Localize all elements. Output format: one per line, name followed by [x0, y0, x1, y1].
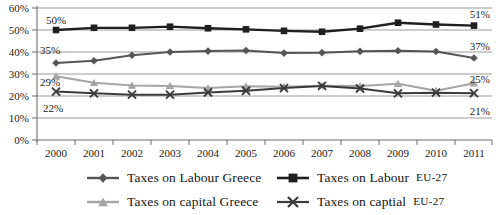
legend-label-capital-eu27-sc: EU-27 — [413, 196, 444, 207]
legend-marker-x — [276, 195, 310, 209]
data-point-diamond — [356, 48, 364, 56]
label-capital-gr-start: 29% — [40, 76, 60, 88]
ytick-label-10: 10% — [9, 112, 29, 124]
plot-area: 60% 50% 40% 30% 20% 10% 0% 2000 2001 — [0, 0, 504, 170]
xtick-label-2000: 2000 — [45, 147, 68, 159]
label-capital-eu-start: 22% — [43, 102, 63, 114]
label-labour-gr-end: 37% — [470, 40, 490, 52]
xtick-label-2002: 2002 — [121, 147, 143, 159]
legend-label-labour-eu27: Taxes on Labour — [317, 171, 409, 185]
ytick-label-20: 20% — [9, 90, 29, 102]
legend-marker-diamond — [86, 171, 120, 185]
legend-item-capital-greece[interactable]: Taxes on capital Greece — [86, 195, 276, 209]
xtick-label-2004: 2004 — [197, 147, 220, 159]
data-point-square — [243, 26, 250, 33]
xtick-label-2011: 2011 — [463, 147, 485, 159]
x-axis-labels: 2000 2001 2002 2003 2004 2005 2006 2007 … — [45, 147, 485, 159]
data-point-square — [129, 25, 136, 32]
series-2 — [52, 72, 478, 94]
xtick-label-2006: 2006 — [273, 147, 296, 159]
data-point-square — [205, 25, 212, 32]
data-point-diamond — [394, 47, 402, 55]
data-point-diamond — [280, 49, 288, 57]
xtick-label-2007: 2007 — [311, 147, 334, 159]
data-point-diamond — [470, 54, 478, 62]
y-axis-labels: 60% 50% 40% 30% 20% 10% 0% — [9, 2, 29, 146]
legend-label-capital-eu27: Taxes on captial — [317, 195, 406, 209]
data-point-square — [167, 23, 174, 30]
x-axis-ticks — [37, 140, 492, 145]
legend-label-labour-eu27-sc: EU-27 — [416, 172, 447, 183]
data-point-square — [281, 28, 288, 35]
series-layer — [52, 19, 478, 98]
chart-legend: Taxes on Labour Greece Taxes on Labour E… — [0, 166, 504, 215]
data-point-square — [395, 19, 402, 26]
ytick-label-60: 60% — [9, 2, 29, 14]
series-1 — [53, 19, 478, 35]
data-point-diamond — [242, 47, 250, 55]
series-0 — [52, 47, 478, 67]
data-point-diamond — [318, 49, 326, 57]
label-capital-gr-end: 25% — [470, 73, 490, 85]
legend-label-labour-greece: Taxes on Labour Greece — [127, 171, 261, 185]
ytick-label-40: 40% — [9, 46, 29, 58]
ytick-label-0: 0% — [14, 134, 29, 146]
xtick-label-2005: 2005 — [235, 147, 258, 159]
data-point-diamond — [128, 52, 136, 60]
data-point-square — [471, 22, 478, 29]
legend-label-capital-greece: Taxes on capital Greece — [127, 195, 258, 209]
data-point-diamond — [90, 57, 98, 65]
xtick-label-2009: 2009 — [387, 147, 410, 159]
label-labour-eu-start: 50% — [46, 14, 66, 26]
xtick-label-2008: 2008 — [349, 147, 372, 159]
ytick-label-30: 30% — [9, 68, 29, 80]
data-point-diamond — [52, 59, 60, 67]
data-point-diamond — [204, 47, 212, 55]
data-point-square — [433, 21, 440, 28]
line-chart: 60% 50% 40% 30% 20% 10% 0% 2000 2001 — [0, 0, 504, 215]
ytick-label-50: 50% — [9, 24, 29, 36]
label-labour-gr-start: 35% — [40, 44, 60, 56]
legend-item-capital-eu27[interactable]: Taxes on captial EU-27 — [276, 195, 476, 209]
xtick-label-2003: 2003 — [159, 147, 182, 159]
data-point-square — [53, 27, 60, 34]
legend-marker-square — [276, 171, 310, 185]
label-capital-eu-end: 21% — [470, 105, 490, 117]
legend-marker-triangle — [86, 195, 120, 209]
xtick-label-2010: 2010 — [425, 147, 448, 159]
data-point-square — [357, 25, 364, 32]
legend-item-labour-eu27[interactable]: Taxes on Labour EU-27 — [276, 171, 476, 185]
data-point-diamond — [166, 48, 174, 56]
label-labour-eu-end: 51% — [470, 8, 490, 20]
y-axis-ticks — [32, 8, 37, 140]
xtick-label-2001: 2001 — [83, 147, 105, 159]
legend-item-labour-greece[interactable]: Taxes on Labour Greece — [86, 171, 276, 185]
data-point-diamond — [432, 48, 440, 56]
data-point-square — [319, 28, 326, 35]
data-point-square — [91, 25, 98, 32]
